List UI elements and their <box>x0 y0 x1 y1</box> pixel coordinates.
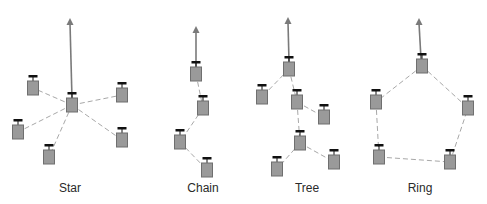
antenna-bar <box>118 82 127 85</box>
antenna-bar <box>464 95 473 98</box>
node-body <box>67 98 78 112</box>
antenna-bar <box>29 75 38 78</box>
link-line <box>376 66 422 102</box>
link-line <box>18 105 72 132</box>
node-body <box>28 81 39 95</box>
sensor-node-icon <box>463 95 474 115</box>
node-body <box>463 101 474 115</box>
topology-star <box>13 18 128 164</box>
node-body <box>319 110 330 124</box>
antenna-bar <box>176 129 185 132</box>
node-body <box>202 163 213 177</box>
node-body <box>44 150 55 164</box>
arrow-up-icon <box>67 18 74 25</box>
node-body <box>13 125 24 139</box>
sensor-node-icon <box>67 92 78 112</box>
antenna-bar <box>285 56 294 59</box>
antenna-bar <box>372 89 381 92</box>
antenna-bar <box>418 53 427 56</box>
sensor-node-icon <box>295 130 306 150</box>
sensor-node-icon <box>272 156 283 176</box>
node-body <box>329 155 340 169</box>
node-body <box>272 162 283 176</box>
node-body <box>198 101 209 115</box>
sensor-node-icon <box>319 104 330 124</box>
node-body <box>295 136 306 150</box>
node-body <box>175 135 186 149</box>
arrow-up-icon <box>285 17 292 24</box>
node-body <box>374 150 385 164</box>
sensor-node-icon <box>202 157 213 177</box>
antenna-bar <box>203 157 212 160</box>
antenna-bar <box>296 130 305 133</box>
sensor-node-icon <box>13 119 24 139</box>
sensor-node-icon <box>117 82 128 102</box>
node-body <box>191 67 202 81</box>
antenna-bar <box>118 127 127 130</box>
node-body <box>445 155 456 169</box>
link-line <box>49 105 72 157</box>
antenna-bar <box>199 95 208 98</box>
sensor-node-icon <box>292 89 303 109</box>
sensor-node-icon <box>44 144 55 164</box>
antenna-bar <box>68 92 77 95</box>
node-body <box>292 95 303 109</box>
arrow-up-icon <box>416 18 423 25</box>
link-line <box>379 157 450 162</box>
topology-ring <box>371 18 474 169</box>
label-tree: Tree <box>295 181 319 195</box>
sensor-node-icon <box>257 84 268 104</box>
sensor-node-icon <box>329 149 340 169</box>
antenna-bar <box>293 89 302 92</box>
label-star: Star <box>59 181 81 195</box>
label-chain: Chain <box>187 181 218 195</box>
sensor-node-icon <box>284 56 295 76</box>
sensor-node-icon <box>417 53 428 73</box>
antenna-bar <box>45 144 54 147</box>
label-ring: Ring <box>408 181 433 195</box>
link-line <box>72 95 122 105</box>
antenna-bar <box>330 149 339 152</box>
node-body <box>117 88 128 102</box>
sensor-node-icon <box>117 127 128 147</box>
node-body <box>371 95 382 109</box>
link-line <box>422 66 468 108</box>
sensor-node-icon <box>191 61 202 81</box>
sensor-node-icon <box>374 144 385 164</box>
sensor-node-icon <box>175 129 186 149</box>
link-line <box>72 105 122 140</box>
node-body <box>417 59 428 73</box>
topology-tree <box>257 17 340 176</box>
antenna-bar <box>375 144 384 147</box>
arrow-up-icon <box>193 26 200 33</box>
node-body <box>284 62 295 76</box>
sensor-node-icon <box>371 89 382 109</box>
sensor-node-icon <box>198 95 209 115</box>
antenna-bar <box>192 61 201 64</box>
link-line <box>450 108 468 162</box>
uplink-line <box>70 23 72 99</box>
antenna-bar <box>320 104 329 107</box>
node-body <box>257 90 268 104</box>
node-body <box>117 133 128 147</box>
sensor-node-icon <box>28 75 39 95</box>
topology-diagram <box>0 0 487 204</box>
antenna-bar <box>273 156 282 159</box>
antenna-bar <box>14 119 23 122</box>
antenna-bar <box>258 84 267 87</box>
topology-chain <box>175 26 213 177</box>
antenna-bar <box>446 149 455 152</box>
